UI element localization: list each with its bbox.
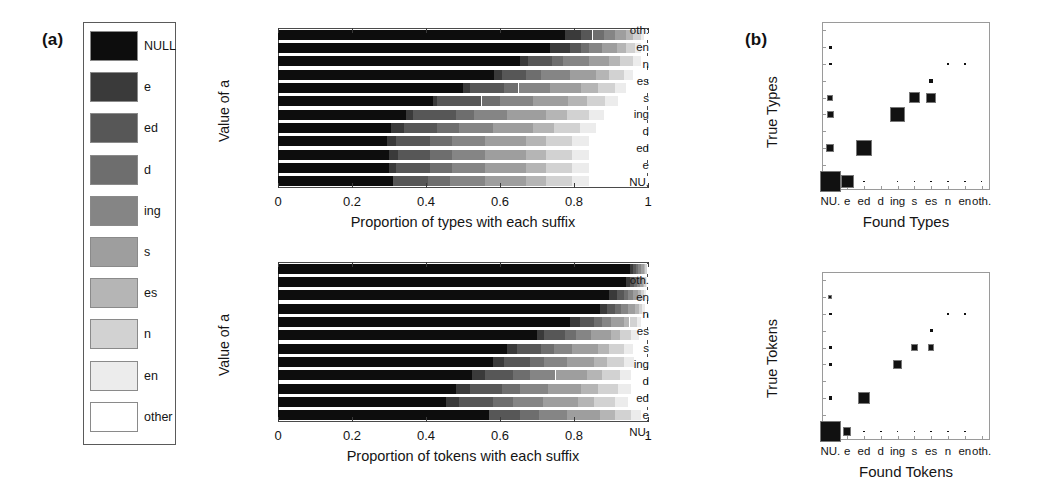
legend-swatch-n [90,319,138,349]
matrix-x-tick [898,436,899,440]
bar-segment-e [507,344,516,354]
legend-label-other: other [144,402,173,432]
x-tick-label: 0 [258,194,298,209]
bar-segment-ed [470,384,501,394]
x-tick-top [648,262,649,267]
matrix-cell [928,344,934,350]
matrix-cell [826,144,834,152]
matrix-x-tick [982,186,983,190]
bar-segment-ed [570,43,581,53]
bar-segment-e [463,83,470,93]
matrix-cell [863,431,865,433]
bar-segment-ing [519,83,550,93]
bar-segment-d [504,83,519,93]
bar-segment-null [278,277,626,287]
bar-segment-n [609,344,624,354]
bar-segment-n [598,83,615,93]
matrix-y-tick [822,64,826,65]
matrix-y-label-d: d [643,125,649,137]
matrix-y-label-en: en [636,41,649,53]
legend-item-e: e [90,72,172,102]
bar-segment-en [615,397,628,407]
legend-swatch-d [90,155,138,185]
matrix-cell [947,63,949,65]
bar-segment-ing [604,30,615,40]
bar-segment-n [626,43,635,53]
bar-segment-n [615,410,632,420]
bar-segment-ed [617,290,624,300]
matrix-y-tick [822,47,826,48]
bar-segment-e [391,123,404,133]
bar-segment-ing [452,150,485,160]
bar-segment-null [278,136,387,146]
bar-segment-d [520,410,539,420]
bar-segment-s [589,56,609,66]
bar-segment-d [437,123,459,133]
x-tick [278,183,279,188]
x-axis-title: Proportion of tokens with each suffix [278,448,648,464]
matrix-x-tick [847,436,848,440]
legend-label-d: d [144,155,151,185]
bar-segment-s [591,330,611,340]
bar-segment-d [428,176,450,186]
matrix-cell [880,431,882,433]
bar-segment-es [600,410,615,420]
matrix-x-tick [931,186,932,190]
x-tick-label: 0.4 [406,428,446,443]
legend-item-other: other [90,402,172,432]
x-tick-label: 0.6 [480,428,520,443]
matrix-y-label-oth: oth. [630,274,649,286]
matrix-y-tick [822,398,826,399]
y-axis-title: Value of a [216,314,232,376]
matrix-x-label-oth: oth. [968,445,996,457]
bar-segment-n [567,110,589,120]
matrix-cell [930,329,933,332]
x-tick [574,183,575,188]
bar-segment-es [587,370,602,380]
x-tick-label: 1 [628,194,668,209]
bar-segment-ed [470,83,503,93]
bar-segment-null [278,43,550,53]
matrix-y-tick [822,415,826,416]
matrix-y-label-ing: ing [634,108,649,120]
bar-segment-s [611,317,624,327]
x-tick-top [352,262,353,267]
bar-segment-s [548,384,581,394]
x-tick [500,417,501,422]
x-tick-label: 0.4 [406,194,446,209]
bar-segment-e [570,317,579,327]
bar-segment-en [624,70,633,80]
matrix-y-label-es: es [637,75,649,87]
bar-segment-es [578,397,595,407]
matrix-x-tick [914,436,915,440]
bar-segment-ing [452,136,485,146]
bar-segment-s [615,30,626,40]
bar-segment-ed [502,70,526,80]
bar-segment-ing [544,357,566,367]
x-tick-top [574,28,575,33]
bar-segment-en [605,96,618,106]
bar-segment-null [278,330,537,340]
bar-segment-null [278,264,630,274]
bar-segment-es [617,43,626,53]
legend-item-en: en [90,361,172,391]
legend-swatch-ing [90,196,138,226]
matrix-cell [820,171,841,192]
matrix-y-label-s: s [643,342,649,354]
x-tick-label: 0 [258,428,298,443]
bar-segment-es [526,176,546,186]
x-tick-label: 0.6 [480,194,520,209]
bar-segment-null [278,384,456,394]
bar-segment-e [446,397,459,407]
x-tick-top [574,262,575,267]
x-tick [500,183,501,188]
bar-segment-en [624,344,633,354]
bar-segment-en [580,123,597,133]
bar-segment-e [550,43,570,53]
suffix-legend: NULLeeddingsesnenother [83,22,176,445]
matrix-y-tick [822,165,826,166]
bar-segment-s [567,357,595,367]
matrix-y-tick [822,98,826,99]
bar-segment-d [493,397,513,407]
bar-segment-d [530,357,545,367]
